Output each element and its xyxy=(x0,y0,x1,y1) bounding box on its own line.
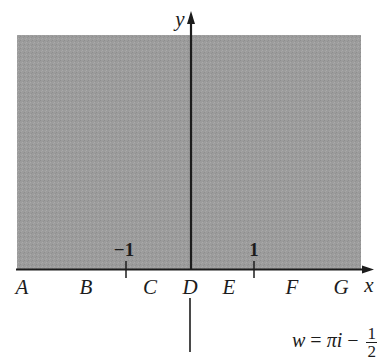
point-label-a: A xyxy=(16,277,29,298)
formula-fraction: 1 2 xyxy=(366,325,377,360)
x-axis-label: x xyxy=(364,275,373,296)
formula-equals: = xyxy=(310,329,321,351)
point-label-f: F xyxy=(286,277,299,298)
point-label-c: C xyxy=(143,277,157,298)
fraction-denominator: 2 xyxy=(366,343,377,360)
shaded-region xyxy=(17,35,361,269)
tick-label-minus-one: −1 xyxy=(114,240,134,259)
formula-minus: − xyxy=(347,329,358,351)
tick-label-one: 1 xyxy=(249,240,259,259)
point-label-g: G xyxy=(333,277,348,298)
fraction-numerator: 1 xyxy=(366,325,377,343)
formula-term-pi-i: πi xyxy=(327,329,343,351)
formula-lhs: w xyxy=(292,329,305,351)
point-label-b: B xyxy=(80,277,93,298)
point-label-e: E xyxy=(223,277,236,298)
mapping-formula: w = πi − 1 2 xyxy=(292,325,377,360)
point-label-d: D xyxy=(182,277,197,298)
y-axis-label: y xyxy=(175,9,184,30)
y-axis-arrowhead-icon xyxy=(187,11,195,24)
